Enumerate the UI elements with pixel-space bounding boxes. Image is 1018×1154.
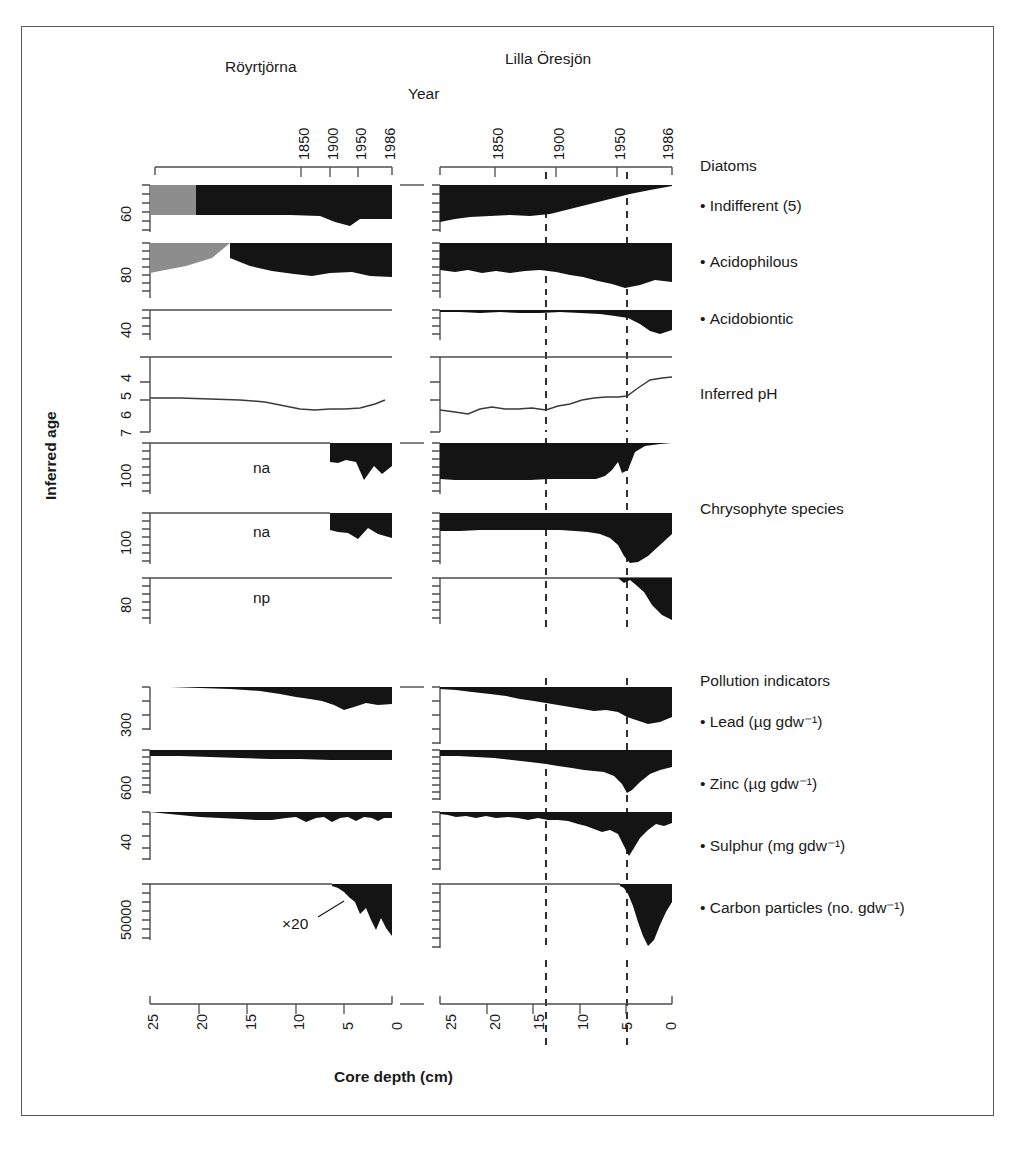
panel-chrysophyte-2-lilla-oresjon <box>432 513 672 564</box>
figure-canvas: Röyrtjörna Lilla Öresjön Year Inferred a… <box>0 0 1018 1154</box>
panel-chrysophyte-1-lilla-oresjon <box>432 443 672 494</box>
panel-indifferent-royrtjorna <box>142 185 392 232</box>
panel-indifferent-lilla-oresjon <box>432 185 672 232</box>
panel-acidophilous-lilla-oresjon <box>432 243 672 298</box>
panel-chrysophyte-2-royrtjorna <box>142 513 392 564</box>
depth-axis-lilla-oresjon <box>440 996 672 1014</box>
stratigraphy-plot <box>0 0 1018 1154</box>
panel-carbon-royrtjorna <box>142 884 392 940</box>
panel-zinc-lilla-oresjon <box>432 750 672 800</box>
panel-chrysophyte-1-royrtjorna <box>142 443 392 494</box>
panel-acidophilous-royrtjorna <box>142 243 392 298</box>
panel-acidobiontic-royrtjorna <box>142 310 392 340</box>
year-axis-lilla-oresjon <box>440 167 672 177</box>
panel-chrysophyte-3-royrtjorna <box>142 578 392 624</box>
panel-sulphur-royrtjorna <box>142 812 392 860</box>
panel-carbon-lilla-oresjon <box>432 884 672 948</box>
year-axis-royrtjorna <box>155 167 392 177</box>
panel-inferred-ph-royrtjorna <box>140 357 392 432</box>
panel-inferred-ph-lilla-oresjon <box>430 357 672 432</box>
panel-lead-royrtjorna <box>142 687 392 730</box>
panel-acidobiontic-lilla-oresjon <box>432 310 672 340</box>
panel-zinc-royrtjorna <box>142 750 392 794</box>
depth-axis-royrtjorna <box>150 996 392 1014</box>
panel-chrysophyte-3-lilla-oresjon <box>432 578 672 624</box>
panel-lead-lilla-oresjon <box>432 687 672 744</box>
panel-sulphur-lilla-oresjon <box>432 812 672 870</box>
